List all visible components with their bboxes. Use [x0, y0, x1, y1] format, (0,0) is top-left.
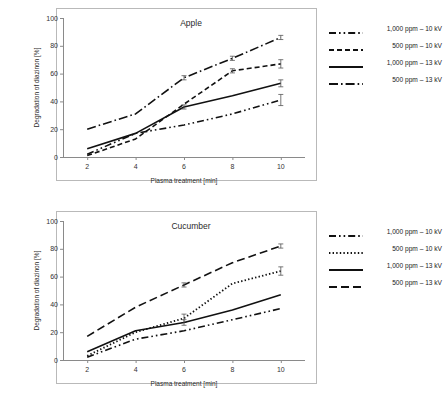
legend-swatch-solid	[328, 58, 364, 68]
svg-text:20: 20	[50, 329, 58, 336]
svg-text:100: 100	[46, 15, 58, 22]
legend-item-label: 1,000 ppm – 13 kV	[364, 58, 444, 68]
svg-text:Plasma treatment [min]: Plasma treatment [min]	[151, 177, 218, 185]
svg-text:4: 4	[134, 163, 138, 170]
svg-text:60: 60	[50, 273, 58, 280]
chart-cucumber: 020406080100246810Plasma treatment [min]…	[0, 203, 322, 406]
legend-item: 1,000 ppm – 13 kV	[328, 259, 444, 273]
svg-text:60: 60	[50, 70, 58, 77]
legend-swatch-dotted	[328, 244, 364, 254]
svg-text:Degradation of diazinon [%]: Degradation of diazinon [%]	[33, 47, 41, 127]
legend-swatch-dashed	[328, 41, 364, 51]
svg-text:6: 6	[182, 163, 186, 170]
legend-item: 1,000 ppm – 13 kV	[328, 56, 444, 70]
legend-item-label: 1,000 ppm – 10 kV	[364, 227, 444, 237]
legend-item-label: 500 ppm – 10 kV	[364, 244, 444, 254]
legend-item: 1,000 ppm – 10 kV	[328, 225, 444, 239]
legend-item: 500 ppm – 13 kV	[328, 73, 444, 87]
svg-text:20: 20	[50, 126, 58, 133]
legend-swatch-longdashed	[328, 278, 364, 288]
plot-area-cucumber: 020406080100246810Plasma treatment [min]…	[0, 203, 322, 406]
svg-text:Cucumber: Cucumber	[171, 221, 210, 231]
svg-text:10: 10	[277, 163, 285, 170]
plot-area-apple: 020406080100246810Plasma treatment [min]…	[0, 0, 322, 203]
legend-cucumber: 1,000 ppm – 10 kV500 ppm – 10 kV1,000 pp…	[322, 203, 444, 406]
svg-text:0: 0	[54, 357, 58, 364]
legend-item-label: 1,000 ppm – 10 kV	[364, 24, 444, 34]
legend-swatch-dashdotdot	[328, 24, 364, 34]
svg-text:8: 8	[230, 163, 234, 170]
chart-apple: 020406080100246810Plasma treatment [min]…	[0, 0, 322, 203]
legend-item: 500 ppm – 10 kV	[328, 39, 444, 53]
svg-text:Degradation of diazinon [%]: Degradation of diazinon [%]	[33, 250, 41, 330]
svg-text:40: 40	[50, 98, 58, 105]
legend-item-label: 500 ppm – 10 kV	[364, 41, 444, 51]
legend-swatch-dashdotdot	[328, 227, 364, 237]
svg-text:40: 40	[50, 301, 58, 308]
svg-text:100: 100	[46, 218, 58, 225]
figure-cucumber: 020406080100246810Plasma treatment [min]…	[0, 203, 444, 406]
svg-text:Plasma treatment [min]: Plasma treatment [min]	[151, 380, 218, 388]
legend-item: 500 ppm – 13 kV	[328, 276, 444, 290]
legend-swatch-solid	[328, 261, 364, 271]
svg-text:Apple: Apple	[180, 18, 202, 28]
svg-text:80: 80	[50, 245, 58, 252]
svg-text:2: 2	[85, 163, 89, 170]
figure-apple: 020406080100246810Plasma treatment [min]…	[0, 0, 444, 203]
legend-item: 500 ppm – 10 kV	[328, 242, 444, 256]
svg-text:4: 4	[134, 366, 138, 373]
svg-text:80: 80	[50, 42, 58, 49]
legend-swatch-dashdot	[328, 75, 364, 85]
svg-text:0: 0	[54, 154, 58, 161]
legend-item-label: 500 ppm – 13 kV	[364, 75, 444, 85]
legend-item-label: 1,000 ppm – 13 kV	[364, 261, 444, 271]
legend-apple: 1,000 ppm – 10 kV500 ppm – 10 kV1,000 pp…	[322, 0, 444, 203]
svg-text:6: 6	[182, 366, 186, 373]
svg-text:10: 10	[277, 366, 285, 373]
svg-text:8: 8	[230, 366, 234, 373]
legend-item: 1,000 ppm – 10 kV	[328, 22, 444, 36]
svg-text:2: 2	[85, 366, 89, 373]
legend-item-label: 500 ppm – 13 kV	[364, 278, 444, 288]
